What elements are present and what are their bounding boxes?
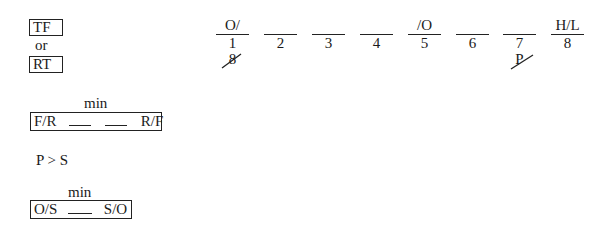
slot-1-above: O/ — [216, 17, 249, 33]
priority-rule: P > S — [36, 153, 68, 168]
slot-4-above — [360, 17, 393, 33]
os-right-label: S/O — [104, 201, 127, 217]
slot-5-above: /O — [408, 17, 441, 33]
slot-7-above — [503, 17, 536, 33]
fr-min-label: min — [84, 96, 107, 111]
fr-rule-box: F/R R/F — [30, 112, 162, 131]
fr-blank-1 — [69, 115, 91, 126]
slot-2-above — [264, 17, 297, 33]
strike-through-icon — [503, 50, 536, 70]
or-label: or — [35, 38, 48, 53]
fr-left-label: F/R — [34, 113, 57, 129]
tf-label: TF — [33, 19, 51, 35]
strike-through-icon — [216, 50, 249, 70]
slot-7-number: 7 — [503, 36, 536, 51]
slot-3-number: 3 — [312, 36, 345, 51]
fr-right-label: R/F — [141, 113, 164, 129]
os-min-label: min — [68, 185, 91, 200]
slot-1-number: 1 — [216, 36, 249, 51]
tf-box: TF — [29, 19, 63, 36]
rt-label: RT — [33, 56, 51, 72]
os-blank-1 — [68, 203, 92, 214]
rt-box: RT — [29, 56, 63, 73]
os-left-label: O/S — [34, 201, 57, 217]
slot-8-number: 8 — [551, 36, 584, 51]
slot-2-number: 2 — [264, 36, 297, 51]
slot-3-above — [312, 17, 345, 33]
slot-4-number: 4 — [360, 36, 393, 51]
os-rule-box: O/S S/O — [30, 200, 132, 219]
slot-5-number: 5 — [408, 36, 441, 51]
fr-blank-2 — [105, 115, 127, 126]
slot-6-above — [456, 17, 489, 33]
slot-6-number: 6 — [456, 36, 489, 51]
slot-8-above: H/L — [551, 17, 584, 33]
